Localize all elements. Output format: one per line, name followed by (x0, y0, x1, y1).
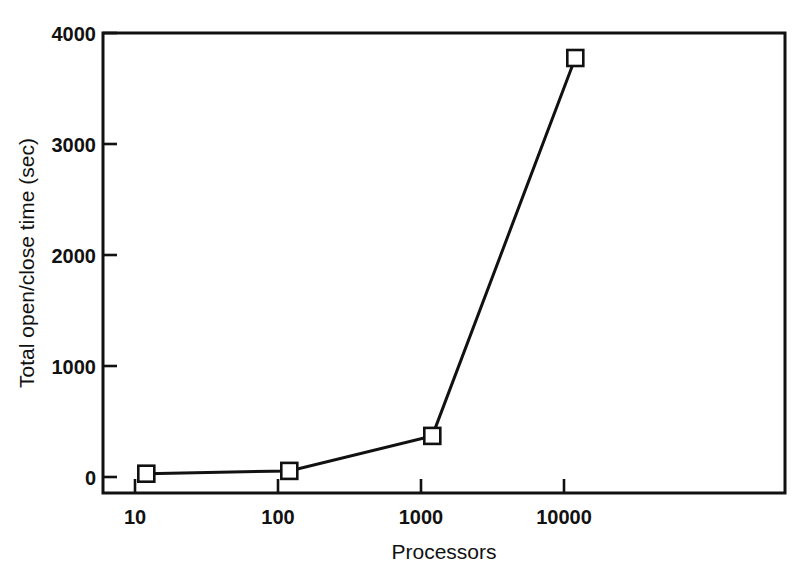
x-axis-ticks (135, 479, 564, 493)
data-point-marker (138, 466, 154, 482)
x-tick-label-1000: 1000 (399, 506, 444, 528)
data-point-marker (281, 463, 297, 479)
y-tick-label-4000: 4000 (52, 23, 97, 45)
line-chart: 4000 3000 2000 1000 0 10 100 1000 10000 … (0, 0, 812, 571)
y-tick-label-3000: 3000 (52, 134, 97, 156)
chart-figure: 4000 3000 2000 1000 0 10 100 1000 10000 … (0, 0, 812, 571)
y-axis-title: Total open/close time (sec) (15, 138, 38, 388)
data-point-marker (567, 50, 583, 66)
x-axis-tick-labels: 10 100 1000 10000 (124, 506, 592, 528)
x-axis-title: Processors (391, 540, 496, 563)
x-tick-label-100: 100 (261, 506, 294, 528)
x-tick-label-10000: 10000 (536, 506, 592, 528)
data-series-group (138, 50, 583, 482)
series-markers (138, 50, 583, 482)
y-tick-label-0: 0 (85, 467, 96, 489)
y-tick-label-2000: 2000 (52, 245, 97, 267)
x-tick-label-10: 10 (124, 506, 146, 528)
y-tick-label-1000: 1000 (52, 356, 97, 378)
data-point-marker (424, 428, 440, 444)
plot-frame (103, 33, 785, 493)
y-axis-tick-labels: 4000 3000 2000 1000 0 (52, 23, 97, 489)
series-line-total-open-close-time (146, 58, 575, 474)
y-axis-ticks (103, 33, 117, 477)
